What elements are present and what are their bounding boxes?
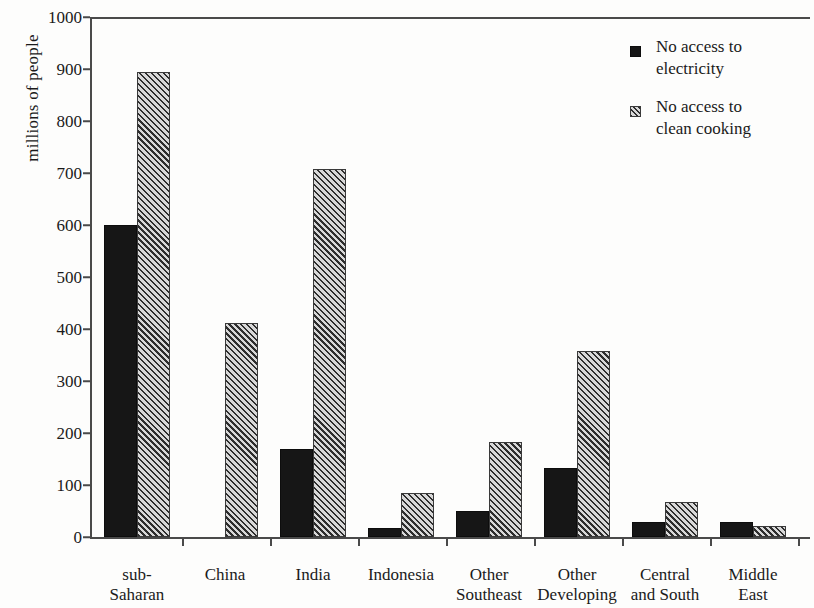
y-tick-mark xyxy=(83,224,90,226)
y-tick-label: 100 xyxy=(38,477,82,494)
legend-label-line1: No access to xyxy=(656,36,810,58)
y-tick-label: 300 xyxy=(38,373,82,390)
y-tick-label: 800 xyxy=(38,113,82,130)
chart-legend: No access toelectricityNo access toclean… xyxy=(630,36,810,156)
x-tick-mark xyxy=(358,538,360,546)
legend-item: No access toelectricity xyxy=(630,36,810,80)
bar-no-access-clean-cooking xyxy=(137,72,170,537)
y-tick-mark xyxy=(83,276,90,278)
y-tick-mark xyxy=(83,16,90,18)
y-tick-mark xyxy=(83,380,90,382)
y-tick-label: 600 xyxy=(38,217,82,234)
y-tick-label: 200 xyxy=(38,425,82,442)
y-tick-mark xyxy=(83,172,90,174)
y-tick-mark xyxy=(83,120,90,122)
y-tick-mark xyxy=(83,328,90,330)
y-tick-mark xyxy=(83,484,90,486)
bar-group xyxy=(104,17,192,537)
y-tick-mark xyxy=(83,432,90,434)
y-tick-mark xyxy=(83,68,90,70)
legend-item: No access toclean cooking xyxy=(630,96,810,140)
chart-page: millions of people 010020030040050060070… xyxy=(0,0,814,608)
x-tick-mark xyxy=(798,538,800,546)
bar-group xyxy=(368,17,456,537)
y-tick-mark xyxy=(83,536,90,538)
bar-group xyxy=(192,17,280,537)
bar-no-access-clean-cooking xyxy=(577,351,610,537)
y-tick-label: 400 xyxy=(38,321,82,338)
x-tick-mark xyxy=(710,538,712,546)
bar-no-access-electricity xyxy=(632,522,665,537)
legend-label-line1: No access to xyxy=(656,96,810,118)
legend-label-line2: clean cooking xyxy=(656,118,810,140)
y-tick-label: 0 xyxy=(38,529,82,546)
bar-group xyxy=(280,17,368,537)
y-axis-line xyxy=(90,17,92,538)
legend-swatch-clean-cooking xyxy=(630,106,641,117)
x-axis-line xyxy=(90,537,810,539)
bar-no-access-electricity xyxy=(544,468,577,537)
bar-no-access-electricity xyxy=(456,511,489,537)
x-tick-mark xyxy=(182,538,184,546)
legend-label-line2: electricity xyxy=(656,58,810,80)
bar-no-access-electricity xyxy=(368,528,401,537)
x-tick-mark xyxy=(270,538,272,546)
y-tick-label: 500 xyxy=(38,269,82,286)
bar-no-access-clean-cooking xyxy=(401,493,434,537)
bar-no-access-clean-cooking xyxy=(665,502,698,537)
y-tick-label: 1000 xyxy=(38,9,82,26)
bar-no-access-clean-cooking xyxy=(753,526,786,537)
x-tick-mark xyxy=(534,538,536,546)
bar-no-access-electricity xyxy=(104,225,137,537)
bar-no-access-clean-cooking xyxy=(313,169,346,537)
bar-no-access-electricity xyxy=(720,522,753,537)
x-tick-mark xyxy=(622,538,624,546)
bar-no-access-electricity xyxy=(280,449,313,537)
legend-swatch-electricity xyxy=(630,46,641,57)
bar-no-access-clean-cooking xyxy=(489,442,522,537)
y-tick-label: 900 xyxy=(38,61,82,78)
x-axis-category-label: Middle East xyxy=(691,565,814,605)
bar-no-access-clean-cooking xyxy=(225,323,258,537)
bar-group xyxy=(544,17,632,537)
bar-group xyxy=(456,17,544,537)
y-tick-label: 700 xyxy=(38,165,82,182)
x-tick-mark xyxy=(446,538,448,546)
